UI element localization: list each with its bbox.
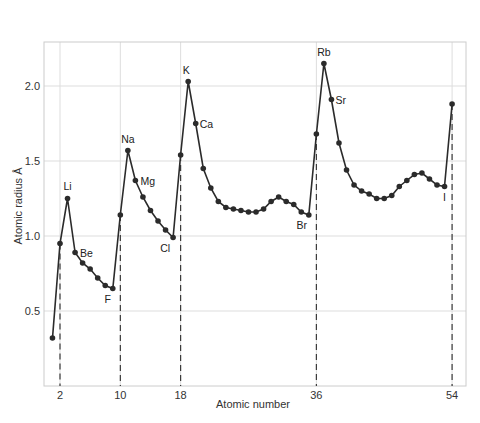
data-point: [291, 202, 297, 208]
data-point: [95, 275, 101, 281]
data-point: [125, 148, 131, 154]
data-point: [223, 205, 229, 211]
data-point: [412, 172, 418, 178]
data-point: [449, 101, 455, 107]
data-point: [72, 250, 78, 256]
element-label-ca: Ca: [200, 118, 214, 130]
data-point: [185, 79, 191, 85]
data-point: [118, 212, 124, 218]
data-point: [50, 335, 56, 341]
data-point: [238, 208, 244, 214]
data-point: [321, 61, 327, 67]
data-point: [442, 184, 448, 190]
data-point: [404, 178, 410, 184]
data-point: [200, 166, 206, 172]
element-label-cl: Cl: [160, 242, 170, 254]
data-point: [231, 206, 237, 212]
data-point: [329, 97, 335, 103]
data-point: [298, 209, 304, 215]
data-point: [261, 206, 267, 212]
data-point: [427, 176, 433, 182]
element-label-li: Li: [63, 180, 71, 192]
data-point: [359, 188, 365, 194]
element-label-mg: Mg: [140, 175, 155, 187]
data-point: [246, 209, 252, 215]
data-point: [366, 191, 372, 197]
data-point: [268, 199, 274, 205]
data-point: [381, 196, 387, 202]
x-axis-label: Atomic number: [216, 398, 290, 410]
data-point: [314, 131, 320, 137]
data-point: [65, 196, 71, 202]
data-point: [253, 209, 259, 215]
x-tick-label: 36: [310, 389, 322, 401]
atomic-radius-chart: 0.51.01.52.0 210183654 LiBeFNaMgClKCaBrR…: [0, 0, 480, 423]
data-point: [306, 212, 312, 218]
data-point: [374, 196, 380, 202]
data-point: [155, 218, 161, 224]
element-label-na: Na: [121, 133, 135, 145]
x-tick-label: 10: [114, 389, 126, 401]
y-tick-label: 1.5: [25, 155, 40, 167]
element-label-i: I: [443, 191, 446, 203]
data-point: [434, 182, 440, 188]
x-tick-label: 2: [57, 389, 63, 401]
y-axis-label: Atomic radius Å: [12, 167, 24, 245]
data-point: [193, 121, 199, 127]
y-axis-ticks: 0.51.01.52.0: [25, 80, 40, 317]
element-label-sr: Sr: [335, 94, 346, 106]
data-point: [344, 167, 350, 173]
data-point: [397, 184, 403, 190]
y-tick-label: 0.5: [25, 305, 40, 317]
element-label-k: K: [183, 64, 190, 76]
data-point: [178, 152, 184, 158]
data-point: [351, 182, 357, 188]
atomic-radius-line: [53, 64, 453, 339]
data-point: [170, 235, 176, 241]
y-tick-label: 2.0: [25, 80, 40, 92]
data-point: [57, 241, 63, 247]
data-point: [102, 283, 108, 289]
data-point: [80, 260, 86, 266]
data-point: [208, 185, 214, 191]
x-tick-label: 18: [175, 389, 187, 401]
data-point: [110, 286, 116, 292]
data-point: [163, 227, 169, 233]
element-label-br: Br: [297, 219, 308, 231]
data-point: [276, 194, 282, 200]
element-label-be: Be: [80, 247, 93, 259]
data-point: [148, 208, 154, 214]
data-point: [133, 178, 139, 184]
element-label-f: F: [105, 293, 111, 305]
element-label-rb: Rb: [317, 46, 331, 58]
data-point: [336, 140, 342, 146]
data-point: [216, 199, 222, 205]
noble-gas-dashed-lines: [60, 104, 452, 386]
data-point: [283, 199, 289, 205]
data-point: [87, 266, 93, 272]
data-point: [140, 194, 146, 200]
data-point: [389, 193, 395, 199]
x-tick-label: 54: [446, 389, 458, 401]
data-point: [419, 170, 425, 176]
y-tick-label: 1.0: [25, 230, 40, 242]
